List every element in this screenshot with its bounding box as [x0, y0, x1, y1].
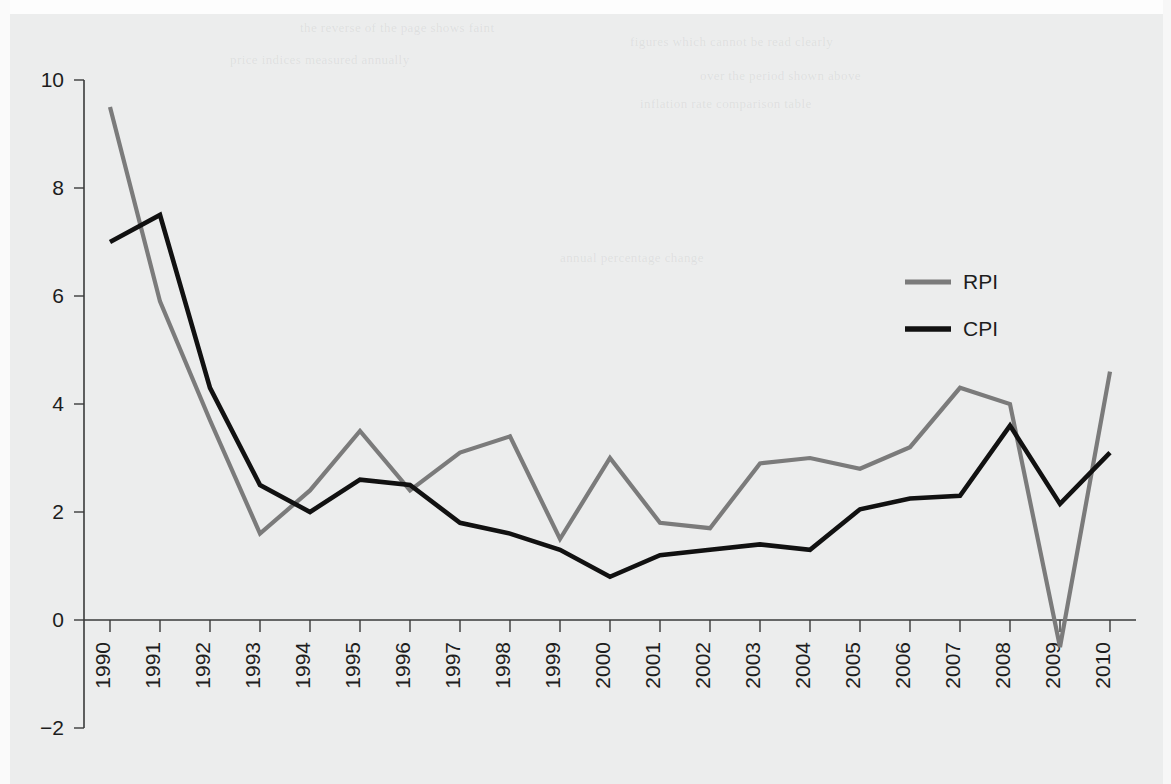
y-axis-tick-labels: −20246810 — [40, 68, 64, 739]
x-tick-label: 2005 — [841, 642, 864, 689]
x-tick-label: 2001 — [641, 642, 664, 689]
x-tick-label: 1995 — [341, 642, 364, 689]
chart-legend: RPICPI — [905, 270, 998, 340]
x-tick-label: 1996 — [391, 642, 414, 689]
x-tick-label: 2007 — [941, 642, 964, 689]
y-tick-label: 4 — [52, 392, 64, 415]
x-tick-label: 1999 — [541, 642, 564, 689]
y-tick-label: 2 — [52, 500, 64, 523]
x-tick-label: 1993 — [241, 642, 264, 689]
x-axis-tick-labels: 1990199119921993199419951996199719981999… — [91, 642, 1114, 689]
y-tick-label: 0 — [52, 608, 64, 631]
x-tick-label: 1990 — [91, 642, 114, 689]
x-tick-label: 1998 — [491, 642, 514, 689]
inflation-line-chart: −20246810 199019911992199319941995199619… — [0, 0, 1171, 784]
x-tick-label: 2004 — [791, 642, 814, 689]
legend-label-rpi: RPI — [963, 270, 998, 293]
x-tick-label: 2000 — [591, 642, 614, 689]
data-series-layer — [110, 107, 1110, 647]
x-tick-label: 1994 — [291, 642, 314, 689]
x-tick-label: 2002 — [691, 642, 714, 689]
x-tick-label: 1991 — [141, 642, 164, 689]
y-tick-label: 8 — [52, 176, 64, 199]
chart-page: the reverse of the page shows faintfigur… — [0, 0, 1171, 784]
series-line-cpi — [110, 215, 1110, 577]
y-tick-label: 10 — [41, 68, 64, 91]
y-tick-label: 6 — [52, 284, 64, 307]
series-line-rpi — [110, 107, 1110, 647]
x-tick-label: 1992 — [191, 642, 214, 689]
x-tick-label: 2006 — [891, 642, 914, 689]
x-tick-label: 2008 — [991, 642, 1014, 689]
x-axis-ticks — [110, 620, 1110, 632]
x-tick-label: 2003 — [741, 642, 764, 689]
x-tick-label: 2010 — [1091, 642, 1114, 689]
x-tick-label: 2009 — [1041, 642, 1064, 689]
x-tick-label: 1997 — [441, 642, 464, 689]
y-tick-label: −2 — [40, 716, 64, 739]
y-axis-ticks — [74, 80, 84, 728]
legend-label-cpi: CPI — [963, 317, 998, 340]
